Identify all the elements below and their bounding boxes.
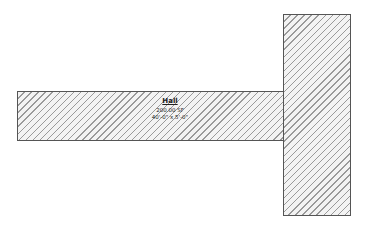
hall-label: Hall 200.00 SF 40'-0" x 5'-0" (120, 98, 220, 120)
room-name: Hall (120, 98, 220, 105)
adjacent-room[interactable] (283, 14, 351, 216)
room-dimensions: 40'-0" x 5'-0" (120, 115, 220, 121)
room-area: 200.00 SF (120, 108, 220, 114)
